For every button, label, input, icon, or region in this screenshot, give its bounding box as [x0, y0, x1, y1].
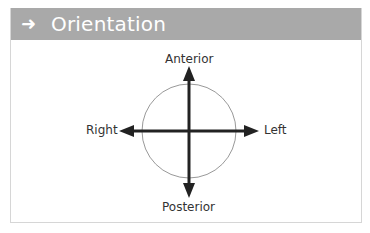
arrow-right-icon: [244, 125, 259, 137]
arrow-up-icon: [183, 66, 195, 81]
orientation-diagram: [0, 0, 370, 233]
label-left: Left: [264, 123, 287, 137]
arrow-left-icon: [119, 125, 134, 137]
label-right: Right: [86, 123, 118, 137]
label-posterior: Posterior: [162, 200, 215, 214]
label-anterior: Anterior: [165, 52, 213, 66]
arrow-down-icon: [183, 183, 195, 198]
